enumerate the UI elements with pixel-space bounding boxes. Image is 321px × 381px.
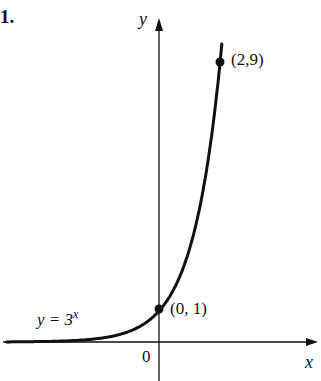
- point-0-1: [155, 305, 164, 314]
- point-label-2-9: (2,9): [231, 50, 264, 70]
- origin-label: 0: [142, 347, 151, 367]
- point-label-0-1: (0, 1): [170, 299, 207, 319]
- exponential-curve: [7, 44, 222, 342]
- point-2-9: [216, 58, 225, 67]
- curve-label-exponent: x: [73, 307, 78, 321]
- y-axis-label: y: [139, 9, 147, 30]
- problem-number: 1.: [0, 6, 14, 28]
- x-axis-label: x: [305, 352, 313, 373]
- curve-label: y = 3x: [37, 307, 78, 330]
- y-axis-arrow-icon: [155, 18, 163, 31]
- curve-label-text: y = 3: [37, 310, 73, 329]
- x-axis-arrow-icon: [306, 338, 318, 346]
